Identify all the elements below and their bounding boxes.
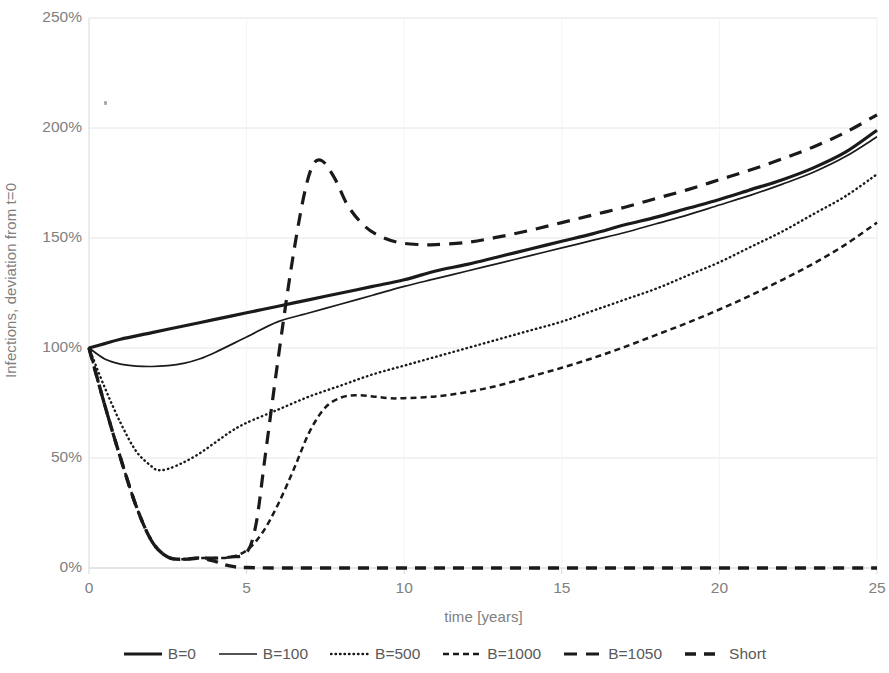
- series-line-b-100: [89, 137, 877, 367]
- legend-label: B=1000: [487, 645, 541, 663]
- legend-label: B=100: [263, 645, 308, 663]
- legend-label: Short: [729, 645, 766, 663]
- legend-item-b-0[interactable]: B=0: [123, 645, 196, 663]
- legend-label: B=500: [375, 645, 420, 663]
- legend-item-b-100[interactable]: B=100: [218, 645, 308, 663]
- chart-legend: B=0B=100B=500B=1000B=1050Short: [0, 645, 889, 663]
- legend-item-short[interactable]: Short: [684, 645, 766, 663]
- legend-swatch-solid-thin: [218, 647, 258, 661]
- legend-swatch-dashed-thick: [684, 647, 724, 661]
- series-line-b-1000: [89, 223, 877, 560]
- legend-swatch-dotted: [330, 647, 370, 661]
- series-line-b-1050: [89, 115, 877, 559]
- legend-swatch-solid-thick: [123, 647, 163, 661]
- stray-marker-dot: [104, 101, 107, 105]
- legend-swatch-dashed-small: [442, 647, 482, 661]
- legend-item-b-1050[interactable]: B=1050: [563, 645, 662, 663]
- legend-item-b-1000[interactable]: B=1000: [442, 645, 541, 663]
- chart-container: Infections, deviation from t=0 0%50%100%…: [0, 0, 889, 673]
- legend-label: B=1050: [608, 645, 662, 663]
- legend-label: B=0: [168, 645, 196, 663]
- legend-swatch-dashed-long: [563, 647, 603, 661]
- legend-item-b-500[interactable]: B=500: [330, 645, 420, 663]
- x-axis-title-text: time [years]: [444, 608, 523, 625]
- x-axis-title: time [years]: [89, 608, 878, 625]
- plot-area: [0, 0, 889, 673]
